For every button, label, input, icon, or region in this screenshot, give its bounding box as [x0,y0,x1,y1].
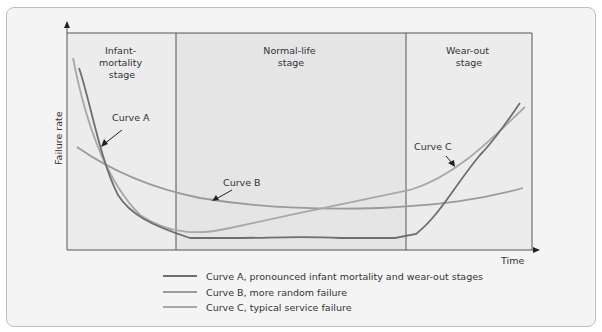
x-axis-label: Time [500,255,524,266]
bathtub-chart: Infant- mortality stage Normal-life stag… [0,0,602,332]
legend-item-a: Curve A, pronounced infant mortality and… [206,271,483,282]
legend-item-c: Curve C, typical service failure [206,302,352,313]
y-axis-label: Failure rate [53,111,64,165]
annotation-curve-a: Curve A [112,112,150,123]
annotation-curve-c: Curve C [414,141,452,152]
y-axis-arrow-icon [64,21,70,28]
legend-item-b: Curve B, more random failure [206,287,347,298]
x-axis-arrow-icon [533,247,540,253]
annotation-curve-b: Curve B [223,177,261,188]
legend: Curve A, pronounced infant mortality and… [163,271,483,313]
